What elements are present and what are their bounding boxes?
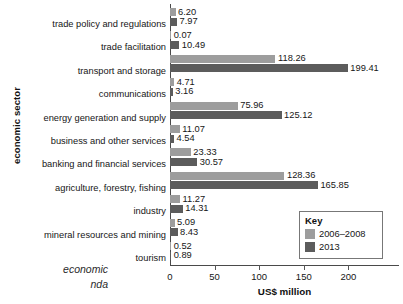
bar-2013 — [170, 228, 178, 236]
bar-2006-2008 — [170, 172, 284, 180]
bar-value-label: 118.26 — [278, 54, 306, 63]
legend-swatch-2013 — [305, 242, 315, 252]
figure-caption: economic nda — [0, 262, 112, 292]
bar-2006-2008 — [170, 78, 174, 86]
bar-value-label: 10.49 — [182, 41, 205, 50]
x-tick-mark — [304, 265, 305, 270]
bar-value-label: 128.36 — [287, 171, 315, 180]
category-label: agriculture, forestry, fishing — [12, 183, 166, 193]
bar-2006-2008 — [170, 31, 171, 39]
bar-value-label: 199.41 — [350, 64, 378, 73]
category-label: mineral resources and mining — [12, 230, 166, 240]
x-tick-label: 0 — [167, 271, 172, 282]
category-label: transport and storage — [12, 66, 166, 76]
bar-value-label: 4.54 — [177, 134, 195, 143]
bar-value-label: 23.33 — [193, 148, 216, 157]
bar-value-label: 30.57 — [200, 158, 223, 167]
bar-2013 — [170, 158, 197, 166]
caption-line-2: nda — [0, 277, 108, 292]
legend: Key 2006–2008 2013 — [299, 211, 383, 259]
bar-value-label: 8.43 — [180, 228, 198, 237]
bar-2013 — [170, 181, 318, 189]
bar-value-label: 75.96 — [240, 101, 263, 110]
bar-chart-figure: economic sector trade policy and regulat… — [0, 0, 403, 304]
bar-value-label: 165.85 — [320, 181, 348, 190]
category-label: communications — [12, 89, 166, 99]
bar-2006-2008 — [170, 102, 238, 110]
bar-2006-2008 — [170, 125, 180, 133]
category-label: trade policy and regulations — [12, 19, 166, 29]
x-tick-label: 50 — [209, 271, 220, 282]
bar-value-label: 0.89 — [174, 251, 192, 260]
legend-label-2006-2008: 2006–2008 — [319, 229, 366, 239]
bar-2013 — [170, 252, 171, 260]
legend-swatch-2006-2008 — [305, 229, 315, 239]
bar-2013 — [170, 135, 174, 143]
legend-label-2013: 2013 — [319, 242, 340, 252]
category-label: energy generation and supply — [12, 113, 166, 123]
category-label: trade facilitation — [12, 42, 166, 52]
bar-2013 — [170, 64, 348, 72]
legend-title: Key — [305, 215, 382, 226]
legend-entry-2013: 2013 — [305, 240, 382, 253]
bar-2006-2008 — [170, 55, 275, 63]
bar-2006-2008 — [170, 148, 191, 156]
caption-line-1: economic — [0, 262, 108, 277]
bar-value-label: 7.97 — [180, 17, 198, 26]
x-tick-mark — [259, 265, 260, 270]
category-label: business and other services — [12, 136, 166, 146]
x-axis-title: US$ million — [170, 286, 399, 297]
category-label: industry — [12, 206, 166, 216]
bar-value-label: 14.31 — [185, 204, 208, 213]
x-tick-label: 100 — [251, 271, 267, 282]
category-label: banking and financial services — [12, 159, 166, 169]
bar-2013 — [170, 111, 282, 119]
x-tick-mark — [348, 265, 349, 270]
x-tick-mark — [215, 265, 216, 270]
bar-2006-2008 — [170, 219, 175, 227]
legend-entry-2006-2008: 2006–2008 — [305, 227, 382, 240]
bar-value-label: 125.12 — [284, 111, 312, 120]
bar-2013 — [170, 205, 183, 213]
bar-value-label: 5.09 — [177, 218, 195, 227]
bar-2013 — [170, 88, 173, 96]
bar-2006-2008 — [170, 242, 171, 250]
category-label-column: trade policy and regulationstrade facili… — [14, 4, 168, 265]
x-tick-label: 200 — [340, 271, 356, 282]
bar-2013 — [170, 18, 177, 26]
bar-2006-2008 — [170, 195, 180, 203]
x-axis-line — [170, 265, 399, 266]
x-tick-label: 150 — [296, 271, 312, 282]
bar-2013 — [170, 41, 179, 49]
bar-value-label: 3.16 — [175, 87, 193, 96]
bar-2006-2008 — [170, 8, 176, 16]
bar-value-label: 0.07 — [174, 31, 192, 40]
